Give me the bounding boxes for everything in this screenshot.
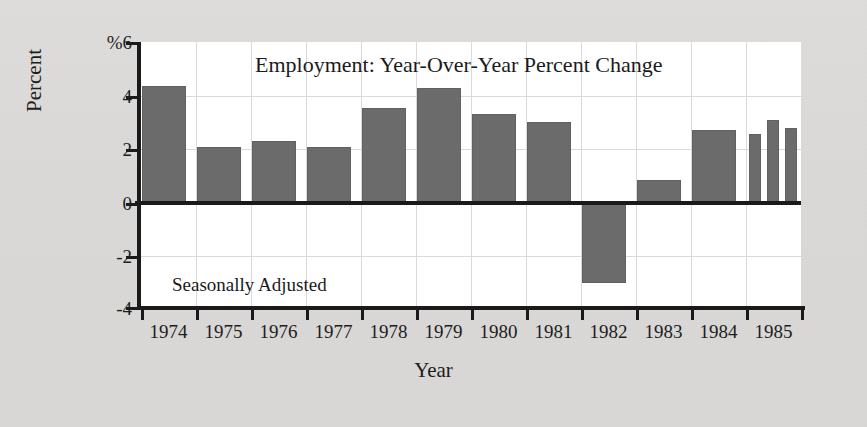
y-tick-label-2: 2 bbox=[123, 140, 133, 159]
y-axis-title: Percent bbox=[22, 49, 47, 112]
chart-title: Employment: Year-Over-Year Percent Chang… bbox=[255, 52, 662, 78]
y-tick-label-0: 0 bbox=[123, 194, 133, 213]
x-tick-label-1977: 1977 bbox=[306, 322, 361, 341]
x-tick-label-1982: 1982 bbox=[581, 322, 636, 341]
x-tick-0 bbox=[141, 310, 144, 320]
bar-1985-q2 bbox=[767, 120, 779, 203]
bar-1983 bbox=[637, 180, 681, 203]
x-tick-label-1979: 1979 bbox=[416, 322, 471, 341]
y-axis bbox=[137, 42, 141, 310]
gridline-x-11 bbox=[746, 42, 747, 310]
x-tick-5 bbox=[416, 310, 419, 320]
x-tick-1 bbox=[196, 310, 199, 320]
bar-1979 bbox=[417, 88, 461, 203]
bar-1982 bbox=[582, 203, 626, 283]
x-axis-title: Year bbox=[0, 358, 867, 383]
x-tick-3 bbox=[306, 310, 309, 320]
x-tick-label-1978: 1978 bbox=[361, 322, 416, 341]
x-tick-7 bbox=[526, 310, 529, 320]
y-tick-label-neg4: -4 bbox=[116, 299, 132, 318]
bar-1985-q3 bbox=[785, 128, 797, 203]
x-tick-label-1980: 1980 bbox=[471, 322, 526, 341]
figure-root: %6 4 2 0 -2 -4 1974197519761977197819791… bbox=[0, 0, 867, 427]
x-tick-10 bbox=[691, 310, 694, 320]
x-tick-2 bbox=[251, 310, 254, 320]
chart-annotation: Seasonally Adjusted bbox=[172, 274, 327, 296]
zero-baseline bbox=[135, 201, 801, 205]
x-tick-label-1981: 1981 bbox=[526, 322, 581, 341]
x-tick-9 bbox=[636, 310, 639, 320]
x-tick-12 bbox=[801, 310, 804, 320]
bar-1980 bbox=[472, 114, 516, 202]
gridline-x-9 bbox=[636, 42, 637, 310]
bar-1976 bbox=[252, 141, 296, 203]
x-tick-4 bbox=[361, 310, 364, 320]
x-tick-label-1975: 1975 bbox=[196, 322, 251, 341]
bar-1978 bbox=[362, 108, 406, 203]
x-tick-6 bbox=[471, 310, 474, 320]
y-tick-label-4: 4 bbox=[123, 87, 133, 106]
bar-1981 bbox=[527, 122, 571, 202]
x-tick-11 bbox=[746, 310, 749, 320]
y-tick-label-6: %6 bbox=[107, 33, 132, 52]
plot-area bbox=[141, 42, 801, 310]
x-tick-label-1976: 1976 bbox=[251, 322, 306, 341]
x-tick-label-1974: 1974 bbox=[141, 322, 196, 341]
bar-1974 bbox=[142, 86, 186, 203]
bar-1977 bbox=[307, 147, 351, 203]
x-tick-8 bbox=[581, 310, 584, 320]
bar-1975 bbox=[197, 147, 241, 203]
x-tick-label-1984: 1984 bbox=[691, 322, 746, 341]
bar-1985-q1 bbox=[749, 134, 761, 202]
bar-1984 bbox=[692, 130, 736, 202]
y-tick-label-neg2: -2 bbox=[116, 247, 132, 266]
x-tick-label-1983: 1983 bbox=[636, 322, 691, 341]
x-tick-label-1985: 1985 bbox=[746, 322, 801, 341]
